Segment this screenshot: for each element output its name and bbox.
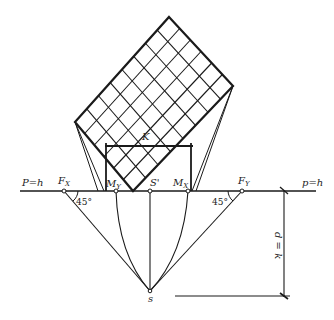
perspective-diagram: K P=h p=h 45° 45° FX MY S' MX FY s d = k	[0, 0, 334, 320]
point-fx	[62, 189, 66, 193]
angle-arcs	[73, 191, 233, 201]
horizon-label-left: P=h	[21, 177, 44, 188]
label-s: s	[148, 293, 153, 304]
horizon-label-right: p=h	[302, 177, 323, 188]
angle-label-right: 45°	[212, 197, 228, 207]
point-s-prime	[148, 189, 152, 193]
distance-dimension	[175, 187, 290, 299]
point-fy	[240, 189, 244, 193]
label-s-prime: S'	[150, 177, 160, 188]
label-fy: FY	[237, 175, 251, 188]
label-mx: MX	[172, 177, 189, 190]
k-label: K	[141, 131, 150, 142]
label-my: MY	[105, 178, 122, 191]
distance-label: d = k	[273, 232, 284, 259]
grid-outline	[75, 17, 233, 191]
tiled-grid	[75, 17, 233, 191]
angle-label-left: 45°	[76, 197, 92, 207]
label-fx: FX	[57, 175, 71, 188]
